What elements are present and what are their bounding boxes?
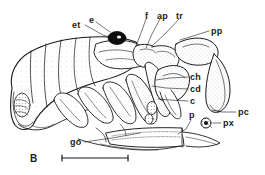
leader-e [96,22,110,32]
label-go: go [70,138,81,147]
label-pp: pp [211,27,222,36]
label-tr: tr [176,12,183,21]
label-px: px [223,119,234,128]
label-p: p [189,111,195,120]
round-pleopod [201,118,212,128]
label-ap: ap [157,12,168,21]
leader-f [136,19,146,46]
scale-bar [62,155,128,161]
elongate-pleon [78,124,220,150]
anatomical-line-drawing [0,0,265,175]
drawing-ink [11,19,236,161]
label-ch: ch [190,73,201,82]
label-et: et [72,21,80,30]
label-f: f [145,12,148,21]
figure-panel-b: et e f ap tr pp ch cd c p pc px go B [0,0,265,175]
label-pc: pc [238,108,249,117]
label-cd: cd [190,85,201,94]
label-c: c [190,97,195,106]
label-e: e [89,16,94,25]
panel-label-b: B [30,154,37,164]
leader-tr [152,19,179,46]
leader-ap [146,19,160,48]
